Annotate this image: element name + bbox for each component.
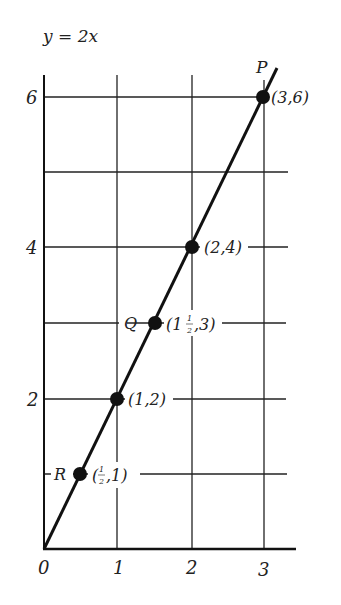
x-tick-2: 2	[185, 557, 197, 578]
label-q: Q	[124, 314, 137, 333]
chart-title: y = 2x	[42, 26, 98, 46]
coord-r-open: (	[92, 466, 99, 485]
chart: y = 2x 0 1 2 3 6 4 2 P (3,6) (2,4) Q (1 …	[0, 0, 341, 605]
point-1-2	[110, 392, 124, 406]
point-q	[148, 316, 162, 330]
coord-1-2: (1,2)	[128, 390, 166, 409]
x-tick-1: 1	[113, 557, 124, 578]
label-p: P	[255, 57, 268, 77]
half-num-q: 1	[187, 314, 192, 323]
coord-q-open: (1	[166, 315, 182, 334]
label-r: R	[53, 465, 66, 484]
point-r	[73, 467, 87, 481]
coord-q-close: ,3)	[194, 315, 216, 334]
y-tick-4: 4	[25, 237, 37, 258]
x-tick-0: 0	[38, 557, 49, 578]
coord-3-6: (3,6)	[271, 88, 309, 107]
point-2-4	[185, 240, 199, 254]
coord-r-close: ,1)	[106, 466, 128, 485]
half-den-q: 2	[186, 326, 192, 335]
y-tick-6: 6	[26, 87, 37, 108]
coord-2-4: (2,4)	[204, 238, 242, 257]
point-p	[256, 90, 270, 104]
half-num-r: 1	[99, 465, 104, 474]
half-den-r: 2	[98, 477, 104, 486]
y-tick-2: 2	[26, 389, 38, 410]
x-tick-3: 3	[258, 559, 269, 580]
